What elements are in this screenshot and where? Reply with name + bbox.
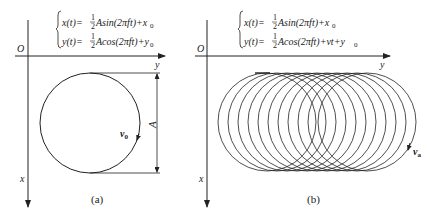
- dimension-label-a: A: [146, 121, 158, 129]
- svg-text:y(t)=: y(t)=: [243, 36, 265, 48]
- x-axis-label-a: x: [19, 173, 25, 184]
- svg-text:Acos(2πft)+y: Acos(2πft)+y: [95, 36, 149, 48]
- circular-trajectory: [40, 73, 140, 173]
- svg-text:2: 2: [273, 22, 277, 31]
- svg-text:0: 0: [150, 22, 154, 30]
- caption-a: (a): [91, 193, 104, 206]
- direction-arrow-icon: [137, 134, 139, 140]
- caption-b: (b): [307, 193, 320, 206]
- brace-icon: [56, 11, 61, 48]
- svg-text:2: 2: [91, 22, 95, 31]
- svg-text:0: 0: [332, 22, 336, 30]
- trochoid-trajectory: [218, 73, 416, 171]
- svg-text:Asin(2πft)+x: Asin(2πft)+x: [95, 17, 148, 29]
- svg-text:Acos(2πft)+vt+y: Acos(2πft)+vt+y: [277, 36, 345, 48]
- svg-text:0: 0: [354, 41, 358, 49]
- figure: O y x x(t)= 1 2 Asin(2πft)+x 0 y(t)= 1 2…: [0, 0, 430, 218]
- svg-text:1: 1: [273, 13, 277, 22]
- svg-text:x(t)=: x(t)=: [61, 17, 83, 29]
- velocity-label-a: v0: [120, 128, 128, 141]
- brace-icon: [238, 11, 243, 48]
- x-axis-label-b: x: [198, 173, 204, 184]
- svg-text:1: 1: [273, 32, 277, 41]
- panel-a: O y x x(t)= 1 2 Asin(2πft)+x 0 y(t)= 1 2…: [15, 11, 165, 207]
- y-axis-label-a: y: [154, 59, 160, 70]
- panel-b: O y x x(t)= 1 2 Asin(2πft)+x 0 y(t)= 1 2…: [195, 11, 421, 207]
- equations-b: x(t)= 1 2 Asin(2πft)+x 0 y(t)= 1 2 Acos(…: [238, 11, 358, 50]
- svg-text:1: 1: [91, 32, 95, 41]
- origin-label-b: O: [197, 43, 204, 54]
- svg-text:1: 1: [91, 13, 95, 22]
- svg-text:y(t)=: y(t)=: [61, 36, 83, 48]
- svg-text:x(t)=: x(t)=: [243, 17, 265, 29]
- svg-text:2: 2: [91, 41, 95, 50]
- svg-text:2: 2: [273, 41, 277, 50]
- svg-text:Asin(2πft)+x: Asin(2πft)+x: [277, 17, 330, 29]
- velocity-label-b: va: [413, 146, 421, 159]
- y-axis-label-b: y: [379, 59, 385, 70]
- svg-text:0: 0: [150, 41, 154, 49]
- equations-a: x(t)= 1 2 Asin(2πft)+x 0 y(t)= 1 2 Acos(…: [56, 11, 154, 50]
- origin-label-a: O: [17, 43, 24, 54]
